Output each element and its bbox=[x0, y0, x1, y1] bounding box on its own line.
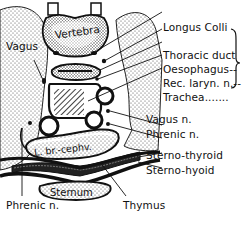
label-sterno-hyoid: Sterno-hyoid bbox=[146, 164, 215, 176]
label-trachea: Trachea....... bbox=[163, 91, 229, 103]
label-phrenic-n-bottom: Phrenic n. bbox=[6, 199, 59, 211]
label-vagus-n: Vagus n. bbox=[146, 113, 192, 125]
label-sterno-thyroid: Sterno-thyroid bbox=[146, 149, 223, 161]
label-thymus: Thymus bbox=[123, 199, 165, 211]
label-vagus-left: Vagus bbox=[6, 40, 38, 52]
label-thoracic-duct: Thoracic duct bbox=[163, 49, 236, 61]
label-phrenic-n-right: Phrenic n. bbox=[146, 128, 199, 140]
label-oesophagus: Oesophagus-- bbox=[163, 63, 237, 75]
label-longus-colli: Longus Colli bbox=[163, 21, 228, 33]
label-rec-laryn: Rec. laryn. n.-- bbox=[163, 77, 241, 89]
sternum-label: Sternum bbox=[50, 187, 93, 198]
